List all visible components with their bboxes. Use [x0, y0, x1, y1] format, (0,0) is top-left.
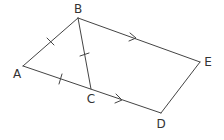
point-label-c: C: [87, 93, 95, 105]
point-label-e: E: [204, 56, 212, 68]
segment-be: [78, 18, 200, 62]
point-label-b: B: [74, 3, 82, 15]
point-label-a: A: [13, 68, 21, 80]
diagram-svg: [0, 0, 224, 140]
segment-de: [161, 62, 200, 113]
point-label-d: D: [156, 118, 165, 130]
geometry-diagram: A B C D E: [0, 0, 224, 140]
